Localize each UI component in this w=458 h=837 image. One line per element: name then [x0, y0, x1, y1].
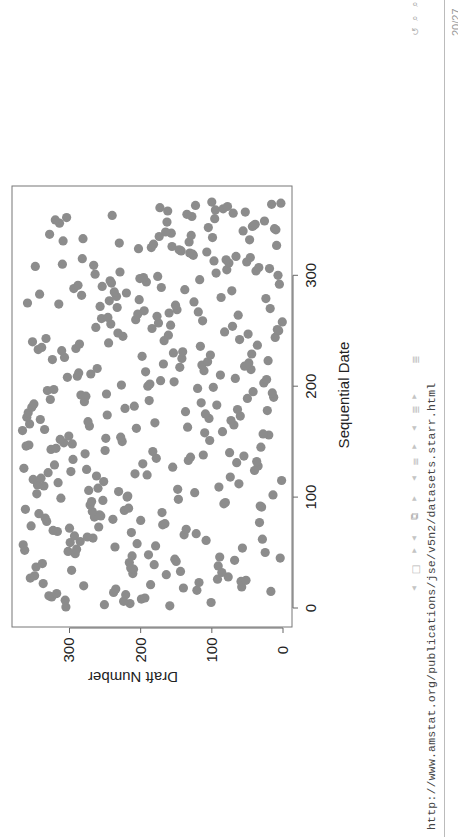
data-point	[192, 529, 201, 538]
data-point	[179, 583, 188, 592]
data-point	[231, 374, 240, 383]
subsection-icon[interactable]: ≣	[410, 403, 421, 417]
data-point	[162, 570, 171, 579]
nav-left-arrow-icon[interactable]: ▼	[412, 534, 417, 541]
data-point	[150, 560, 159, 569]
data-point	[30, 571, 39, 580]
nav-left-arrow-icon[interactable]: ▼	[412, 584, 417, 591]
search-icon[interactable]: ⌕	[409, 11, 421, 25]
data-point	[220, 327, 229, 336]
data-point	[259, 429, 268, 438]
slide-stack-icon[interactable]: ⧉	[409, 509, 421, 523]
data-point	[164, 331, 173, 340]
nav-right-arrow-icon[interactable]: ▲	[412, 546, 417, 553]
nav-right-arrow-icon[interactable]: ▲	[412, 392, 417, 399]
data-point	[66, 467, 75, 476]
data-point	[264, 356, 273, 365]
data-point	[266, 304, 275, 313]
data-point	[74, 368, 83, 377]
data-point	[266, 587, 275, 596]
data-point	[239, 226, 248, 235]
data-point	[276, 554, 285, 563]
data-points	[18, 198, 287, 612]
doc-icon[interactable]: ≣	[410, 353, 421, 367]
data-point	[251, 220, 260, 229]
data-point	[263, 406, 272, 415]
section-icon[interactable]: ≡	[410, 455, 421, 469]
frame-icon[interactable]: □	[410, 563, 421, 577]
data-point	[54, 478, 63, 487]
data-point	[89, 261, 98, 270]
zoom-icon[interactable]: ⌕	[409, 0, 421, 11]
source-url[interactable]: http://www.amstat.org/publications/jse/v…	[425, 383, 438, 830]
data-point	[84, 486, 93, 495]
data-point	[92, 471, 101, 480]
data-point	[212, 269, 221, 278]
nav-right-arrow-icon[interactable]: ▲	[412, 442, 417, 449]
data-point	[141, 367, 150, 376]
data-point	[93, 364, 102, 373]
data-point	[241, 208, 250, 217]
data-point	[38, 559, 47, 568]
data-point	[209, 383, 218, 392]
data-point	[98, 282, 107, 291]
data-point	[173, 485, 182, 494]
data-point	[169, 348, 178, 357]
data-point	[222, 255, 231, 264]
data-point	[218, 427, 227, 436]
data-point	[207, 198, 216, 207]
data-point	[117, 381, 126, 390]
data-point	[111, 585, 120, 594]
data-point	[113, 303, 122, 312]
data-point	[176, 567, 185, 576]
data-point	[205, 436, 214, 445]
data-point	[130, 469, 139, 478]
data-point	[49, 385, 58, 394]
x-tick-label: 100	[302, 485, 319, 510]
data-point	[210, 214, 219, 223]
nav-left-arrow-icon[interactable]: ▼	[412, 474, 417, 481]
x-tick-label: 300	[302, 263, 319, 288]
data-point	[62, 213, 71, 222]
data-point	[267, 200, 276, 209]
data-point	[36, 415, 45, 424]
data-point	[134, 244, 143, 253]
data-point	[260, 216, 269, 225]
data-point	[18, 426, 27, 435]
data-point	[121, 590, 130, 599]
data-point	[233, 405, 242, 414]
data-point	[133, 539, 142, 548]
data-point	[148, 447, 157, 456]
data-point	[64, 547, 73, 556]
data-point	[65, 524, 74, 533]
data-point	[217, 293, 226, 302]
data-point	[110, 542, 119, 551]
data-point	[116, 433, 125, 442]
data-point	[76, 391, 85, 400]
data-point	[102, 389, 111, 398]
data-point	[275, 280, 284, 289]
data-point	[46, 395, 55, 404]
data-point	[115, 267, 124, 276]
undo-icon[interactable]: ↺	[410, 25, 421, 39]
nav-right-arrow-icon[interactable]: ▲	[412, 494, 417, 501]
data-point	[115, 239, 124, 248]
y-tick-label: 300	[60, 637, 77, 662]
data-point	[230, 556, 239, 565]
data-point	[113, 328, 122, 337]
data-point	[56, 494, 65, 503]
data-point	[68, 455, 77, 464]
data-point	[223, 202, 232, 211]
data-point	[58, 260, 67, 269]
data-point	[178, 347, 187, 356]
data-point	[51, 215, 60, 224]
data-point	[272, 241, 281, 250]
nav-left-arrow-icon[interactable]: ▼	[412, 424, 417, 431]
data-point	[94, 522, 103, 531]
data-point	[278, 317, 287, 326]
data-point	[268, 490, 277, 499]
data-point	[138, 459, 147, 468]
data-point	[56, 435, 65, 444]
data-point	[181, 407, 190, 416]
data-point	[138, 352, 147, 361]
